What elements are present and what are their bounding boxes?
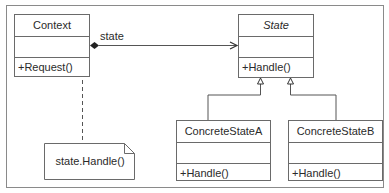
inheritance-triangle-icon (288, 78, 294, 84)
operation: +Handle() (289, 164, 382, 183)
attributes-compartment (289, 143, 382, 164)
operation: +Handle() (239, 58, 313, 77)
class-context[interactable]: Context +Request() (14, 14, 90, 77)
attributes-compartment (177, 143, 270, 164)
class-name: Context (15, 15, 89, 37)
association-label: state (100, 30, 124, 42)
class-name: State (239, 15, 313, 37)
class-name: ConcreteStateB (289, 121, 382, 143)
class-name: ConcreteStateA (177, 121, 270, 143)
class-state[interactable]: State +Handle() (238, 14, 314, 78)
generalization-line-a (208, 84, 261, 120)
attributes-compartment (15, 37, 89, 58)
generalization-line-b (291, 84, 337, 120)
note-text: state.Handle() (45, 155, 135, 167)
composition-diamond-icon (90, 42, 99, 49)
class-concrete-state-b[interactable]: ConcreteStateB +Handle() (288, 120, 383, 181)
operation: +Request() (15, 58, 89, 77)
operation: +Handle() (177, 164, 270, 183)
class-concrete-state-a[interactable]: ConcreteStateA +Handle() (176, 120, 271, 181)
inheritance-triangle-icon (258, 78, 264, 84)
attributes-compartment (239, 37, 313, 58)
